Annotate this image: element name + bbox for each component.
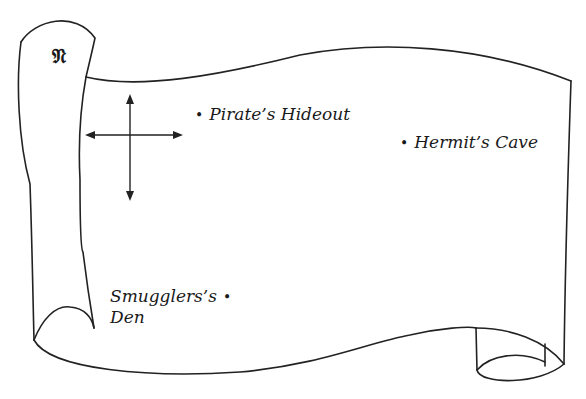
location-label: Pirate’s Hideout (209, 104, 350, 124)
location-smugglers-den[interactable]: Smugglers’s• Den (110, 286, 237, 327)
location-dot-icon: • (400, 135, 408, 151)
compass-rose (90, 100, 178, 196)
location-label: Smugglers’s (110, 286, 217, 306)
location-label: Hermit’s Cave (414, 132, 538, 152)
scroll-outline (0, 0, 586, 399)
location-dot-icon: • (195, 107, 203, 123)
location-hermits-cave[interactable]: •Hermit’s Cave (400, 132, 538, 153)
treasure-map: 𝔑 •Pirate’s Hideout •Hermit’s Cave Smugg… (0, 0, 586, 399)
north-marker-icon: 𝔑 (52, 44, 66, 68)
location-pirates-hideout[interactable]: •Pirate’s Hideout (195, 104, 350, 125)
location-dot-icon: • (223, 289, 231, 305)
location-label-line2: Den (110, 307, 237, 327)
